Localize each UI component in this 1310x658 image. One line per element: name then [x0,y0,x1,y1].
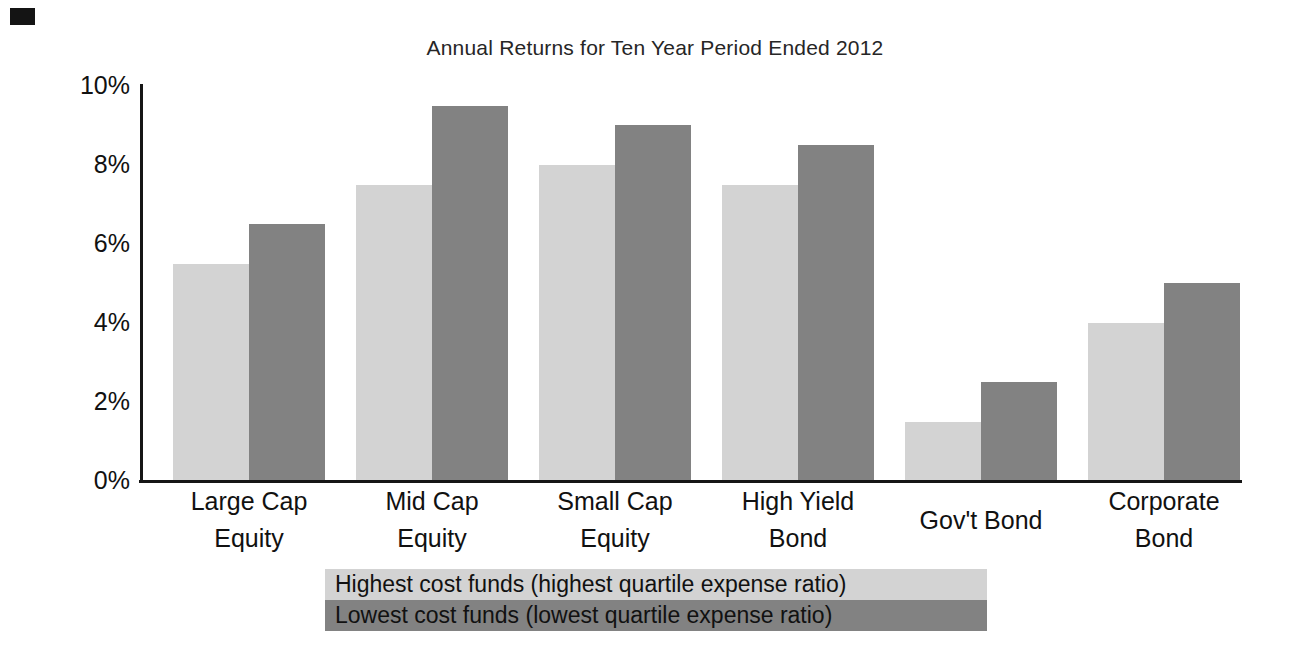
bar-highest-cost-funds-high-yield-bond [722,185,798,481]
x-category-label-line: Mid Cap [385,483,478,520]
y-tick-label-6: 6% [58,229,130,258]
x-category-label-line: Equity [397,520,466,557]
bar-highest-cost-funds-gov-t-bond [905,422,981,481]
bar-highest-cost-funds-mid-cap-equity [356,185,432,481]
x-category-label-line: Small Cap [557,483,672,520]
bar-lowest-cost-funds-high-yield-bond [798,145,874,481]
y-tick-label-0: 0% [58,466,130,495]
x-category-label-small-cap-equity: Small CapEquity [523,484,707,556]
x-category-label-line: Corporate [1108,483,1219,520]
y-tick-label-4: 4% [58,308,130,337]
bar-highest-cost-funds-large-cap-equity [173,264,249,481]
x-category-label-line: Equity [214,520,283,557]
legend-item-label: Lowest cost funds (lowest quartile expen… [335,602,832,629]
legend-item-label: Highest cost funds (highest quartile exp… [335,571,846,598]
x-category-label-line: Equity [580,520,649,557]
x-category-label-line: Bond [769,520,827,557]
y-tick-label-10: 10% [58,71,130,100]
x-category-label-line: Gov't Bond [920,502,1043,539]
bar-lowest-cost-funds-large-cap-equity [249,224,325,481]
x-category-label-large-cap-equity: Large CapEquity [157,484,341,556]
bar-highest-cost-funds-small-cap-equity [539,165,615,481]
bar-lowest-cost-funds-small-cap-equity [615,125,691,481]
y-tick-label-8: 8% [58,150,130,179]
bar-lowest-cost-funds-gov-t-bond [981,382,1057,481]
x-category-label-high-yield-bond: High YieldBond [706,484,890,556]
plot-area: 0%2%4%6%8%10% Large CapEquityMid CapEqui… [0,0,1310,658]
legend-item-highest-cost-funds: Highest cost funds (highest quartile exp… [325,569,987,600]
y-axis-line [140,84,143,483]
legend-item-lowest-cost-funds: Lowest cost funds (lowest quartile expen… [325,600,987,631]
x-category-label-corporate-bond: CorporateBond [1072,484,1256,556]
x-category-label-gov-t-bond: Gov't Bond [889,484,1073,556]
x-category-label-mid-cap-equity: Mid CapEquity [340,484,524,556]
chart-page: Annual Returns for Ten Year Period Ended… [0,0,1310,658]
bar-highest-cost-funds-corporate-bond [1088,323,1164,481]
x-category-label-line: Large Cap [191,483,308,520]
legend: Highest cost funds (highest quartile exp… [325,569,987,631]
bar-lowest-cost-funds-mid-cap-equity [432,106,508,481]
x-category-label-line: Bond [1135,520,1193,557]
bar-lowest-cost-funds-corporate-bond [1164,283,1240,481]
x-category-label-line: High Yield [742,483,855,520]
y-tick-label-2: 2% [58,387,130,416]
